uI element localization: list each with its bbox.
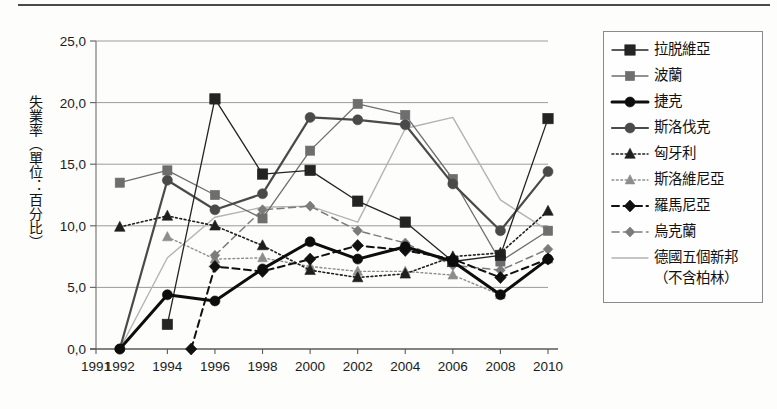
svg-text:20,0: 20,0 [60, 96, 86, 111]
legend-item-1[interactable]: 波蘭 [610, 65, 758, 91]
legend-label: 烏克蘭 [650, 221, 696, 242]
legend-item-3[interactable]: 斯洛伐克 [610, 117, 758, 143]
svg-text:10,0: 10,0 [60, 219, 86, 234]
legend-item-8[interactable]: 德國五個新邦（不含柏林） [610, 247, 758, 293]
legend-item-0[interactable]: 拉脱維亞 [610, 39, 758, 65]
svg-text:2002: 2002 [343, 359, 373, 374]
legend-label: 德國五個新邦（不含柏林） [650, 247, 738, 288]
svg-text:2008: 2008 [485, 359, 515, 374]
legend-marker-icon [610, 65, 650, 87]
svg-text:0,0: 0,0 [67, 342, 86, 357]
svg-text:2010: 2010 [533, 359, 563, 374]
legend-marker-icon [610, 247, 650, 269]
data-series-layer [115, 94, 554, 355]
y-tick-labels: 25,020,015,010,05,00,0 [60, 34, 86, 357]
legend-marker-icon [610, 195, 650, 217]
y-tick-marks [90, 41, 96, 349]
legend-item-6[interactable]: 羅馬尼亞 [610, 195, 758, 221]
svg-text:1996: 1996 [200, 359, 230, 374]
legend-marker-icon [610, 143, 650, 165]
svg-text:1992: 1992 [105, 359, 135, 374]
series-拉脱維亞 [162, 94, 553, 330]
svg-text:5,0: 5,0 [67, 280, 86, 295]
legend-label: 斯洛維尼亞 [650, 169, 724, 190]
legend-label: 捷克 [650, 91, 682, 112]
series-斯洛伐克 [115, 112, 553, 354]
svg-text:15,0: 15,0 [60, 157, 86, 172]
legend-label: 斯洛伐克 [650, 117, 710, 138]
legend-item-2[interactable]: 捷克 [610, 91, 758, 117]
legend-item-7[interactable]: 烏克蘭 [610, 221, 758, 247]
legend-item-4[interactable]: 匈牙利 [610, 143, 758, 169]
svg-text:1998: 1998 [248, 359, 278, 374]
legend-marker-icon [610, 117, 650, 139]
svg-text:2004: 2004 [390, 359, 421, 374]
legend-label: 匈牙利 [650, 143, 696, 164]
legend-label: 拉脱維亞 [650, 39, 710, 60]
chart-figure: 失業率（單位：百分比） 25,020,015,010,05,00,0 19911… [0, 0, 777, 409]
legend-item-5[interactable]: 斯洛維尼亞 [610, 169, 758, 195]
svg-text:2000: 2000 [295, 359, 325, 374]
series-波蘭 [115, 99, 552, 266]
legend-label: 羅馬尼亞 [650, 195, 710, 216]
legend-marker-icon [610, 221, 650, 243]
svg-text:25,0: 25,0 [60, 34, 86, 49]
svg-text:1994: 1994 [152, 359, 183, 374]
x-tick-marks [96, 349, 548, 354]
svg-text:2006: 2006 [438, 359, 468, 374]
legend-marker-icon [610, 91, 650, 113]
legend-marker-icon [610, 169, 650, 191]
legend-marker-icon [610, 39, 650, 61]
legend-label: 波蘭 [650, 65, 682, 86]
x-tick-labels: 1991199219941996199820002002200420062008… [81, 359, 563, 374]
chart-legend: 拉脱維亞波蘭捷克斯洛伐克匈牙利斯洛維尼亞羅馬尼亞烏克蘭德國五個新邦（不含柏林） [603, 31, 763, 303]
